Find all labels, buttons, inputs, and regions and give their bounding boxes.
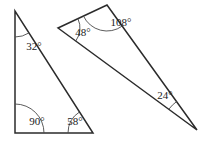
angle-arc-32 <box>15 33 29 37</box>
angle-label-48: 48° <box>75 26 90 38</box>
geometry-canvas: 32° 90° 58° 48° 108° 24° <box>0 0 210 143</box>
angle-arc-24 <box>169 102 177 110</box>
angle-label-90: 90° <box>29 115 44 127</box>
angle-label-108: 108° <box>111 16 132 28</box>
angle-label-24: 24° <box>157 89 172 101</box>
angle-label-32: 32° <box>26 40 41 52</box>
angle-label-58: 58° <box>67 115 82 127</box>
geometry-figure: 32° 90° 58° 48° 108° 24° <box>0 0 210 143</box>
